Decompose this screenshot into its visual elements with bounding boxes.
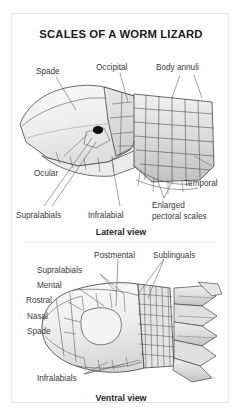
figure-card: SCALES OF A WORM LIZARD: [11, 13, 229, 403]
panel-ventral-view: Postmental Sublinguals Supralabials Ment…: [12, 236, 229, 403]
label-supralabials-ventral: Supralabials: [37, 267, 82, 275]
label-ocular: Ocular: [34, 170, 58, 178]
label-spade-ventral: Spade: [27, 328, 51, 336]
panel-lateral-view: Spade Occipital Body annuli Ocular Tempo…: [12, 46, 229, 226]
label-enlarged-pectoral-line1: Enlarged: [152, 202, 185, 210]
caption-ventral-view: Ventral view: [12, 394, 229, 403]
label-body-annuli: Body annuli: [156, 64, 199, 72]
label-sublinguals: Sublinguals: [153, 252, 195, 260]
label-infralabials: Infralabials: [37, 375, 77, 383]
label-postmental: Postmental: [94, 252, 135, 260]
label-enlarged-pectoral-line2: pectoral scales: [152, 213, 207, 221]
label-supralabials-lateral: Supralabials: [16, 212, 61, 220]
label-spade-lateral: Spade: [36, 68, 60, 76]
label-temporal: Temporal: [184, 180, 218, 188]
label-infralabial: Infralabial: [88, 212, 124, 220]
eye-spot: [93, 126, 103, 134]
label-nasal: Nasal: [27, 313, 48, 321]
label-mental: Mental: [37, 282, 62, 290]
label-occipital: Occipital: [96, 64, 127, 72]
label-rostral: Rostral: [26, 297, 52, 305]
figure-title: SCALES OF A WORM LIZARD: [12, 28, 229, 40]
